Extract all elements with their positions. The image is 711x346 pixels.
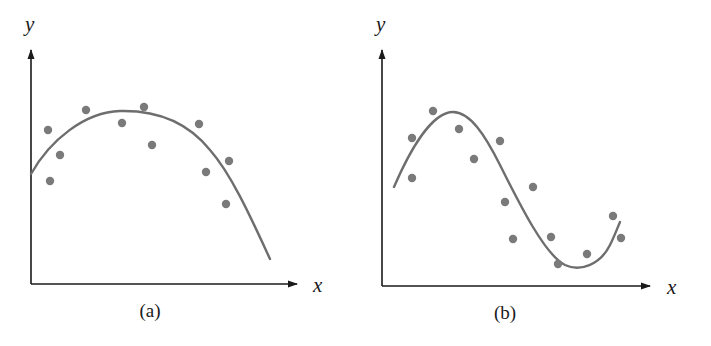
- data-point: [225, 157, 233, 165]
- data-point: [429, 107, 437, 115]
- data-point: [529, 183, 537, 191]
- caption-a: (a): [139, 300, 160, 322]
- caption-b: (b): [494, 302, 516, 324]
- data-point: [470, 155, 478, 163]
- data-point: [44, 126, 52, 134]
- data-point: [455, 125, 463, 133]
- data-point: [583, 250, 591, 258]
- data-point: [547, 233, 555, 241]
- data-point: [118, 119, 126, 127]
- panel-b: y x (b): [374, 12, 677, 324]
- x-axis-label-a: x: [312, 273, 323, 297]
- data-point: [408, 134, 416, 142]
- data-point: [222, 200, 230, 208]
- data-point: [554, 260, 562, 268]
- data-point: [148, 141, 156, 149]
- data-point: [202, 168, 210, 176]
- panel-a: y x (a): [23, 12, 323, 322]
- data-point: [617, 234, 625, 242]
- data-point: [501, 198, 509, 206]
- data-point: [609, 212, 617, 220]
- data-point: [496, 137, 504, 145]
- fit-curve-a: [31, 111, 270, 259]
- data-point: [46, 177, 54, 185]
- fit-curve-b: [394, 112, 620, 268]
- data-point: [509, 235, 517, 243]
- y-axis-label-b: y: [374, 12, 386, 36]
- x-axis-label-b: x: [666, 275, 677, 299]
- data-point: [82, 106, 90, 114]
- data-points-b: [408, 107, 625, 268]
- figure-canvas: y x (a) y x: [0, 0, 711, 346]
- y-axis-label-a: y: [23, 12, 35, 36]
- data-point: [195, 120, 203, 128]
- data-point: [408, 174, 416, 182]
- data-point: [56, 151, 64, 159]
- data-points-a: [44, 103, 233, 208]
- data-point: [140, 103, 148, 111]
